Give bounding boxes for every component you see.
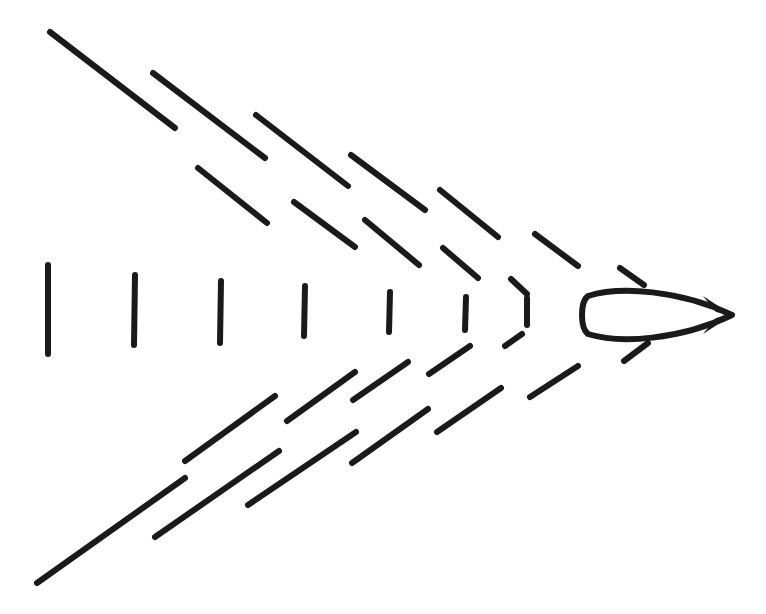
wave-line-lower-outer [248,432,356,505]
wave-line-upper-inner [365,220,419,265]
wave-line-upper-inner [294,202,355,247]
wave-line-transverse [304,286,305,336]
wave-line-upper-outer [256,115,348,186]
wave-line-lower-inner [429,346,470,374]
wave-line-lower-outer [530,366,578,397]
upper-outer-wave-lines [50,32,644,285]
wave-line-upper-inner [443,248,478,278]
wave-line-upper-outer [351,155,425,210]
wave-line-transverse [389,292,390,332]
wave-line-transverse [220,281,221,343]
wave-line-upper-outer [153,73,265,158]
wave-line-upper-inner [511,279,527,294]
wave-line-upper-outer [535,234,578,266]
wave-line-lower-inner [353,362,408,400]
wave-line-lower-outer [624,343,648,361]
vessel-icon [582,291,732,339]
wave-line-upper-outer [50,32,175,128]
upper-inner-wave-lines [198,168,527,294]
wave-line-upper-inner [198,168,267,223]
wake-diagram [0,0,766,614]
wave-line-lower-inner [505,334,522,346]
wave-line-upper-outer [440,190,498,237]
wave-line-transverse [134,275,135,345]
wave-line-lower-outer [352,409,428,463]
transverse-wave-lines [48,265,527,354]
wave-line-transverse [465,297,466,330]
wave-line-upper-outer [620,268,644,285]
lower-inner-wave-lines [185,334,522,461]
wave-line-lower-outer [437,388,501,432]
wave-line-lower-inner [185,396,275,461]
vessel-hull [582,291,732,339]
wave-line-lower-inner [287,372,355,421]
